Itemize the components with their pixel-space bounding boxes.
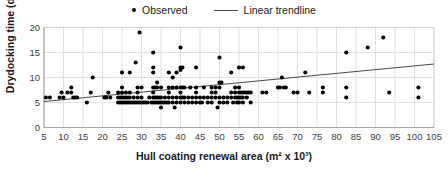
scatter-point (44, 95, 48, 99)
scatter-point (159, 95, 163, 99)
scatter-point (151, 90, 155, 94)
scatter-point (69, 90, 73, 94)
chart-figure: Observed Linear trendline Drydocking tim… (0, 0, 448, 171)
scatter-point (85, 100, 89, 104)
y-tick-label: 20 (29, 22, 40, 33)
scatter-point (221, 100, 225, 104)
scatter-point (178, 100, 182, 104)
scatter-point (194, 95, 198, 99)
scatter-point (182, 85, 186, 89)
scatter-point (229, 90, 233, 94)
scatter-point (303, 70, 307, 74)
scatter-point (321, 85, 325, 89)
scatter-point (216, 105, 220, 109)
scatter-point (381, 35, 385, 39)
x-tick-label: 60 (253, 131, 264, 142)
scatter-point (284, 85, 288, 89)
y-tick-label: 10 (29, 72, 40, 83)
scatter-point (206, 95, 210, 99)
scatter-point (292, 90, 296, 94)
scatter-point (155, 85, 159, 89)
x-tick-label: 100 (407, 131, 423, 142)
scatter-point (120, 90, 124, 94)
scatter-point (217, 55, 221, 59)
scatter-point (75, 95, 79, 99)
scatter-point (147, 95, 151, 99)
scatter-point (167, 100, 171, 104)
x-tick-label: 40 (175, 131, 186, 142)
scatter-point (106, 90, 110, 94)
y-tick-label: 5 (35, 97, 40, 108)
scatter-point (264, 90, 268, 94)
scatter-point (91, 75, 95, 79)
scatter-point (237, 85, 241, 89)
scatter-point (231, 100, 235, 104)
scatter-point (225, 95, 229, 99)
scatter-point (139, 95, 143, 99)
scatter-point (344, 95, 348, 99)
scatter-point (206, 100, 210, 104)
x-tick-label: 75 (312, 131, 323, 142)
scatter-point (120, 85, 124, 89)
scatter-point (171, 100, 175, 104)
x-tick-label: 45 (195, 131, 206, 142)
scatter-point (171, 95, 175, 99)
scatter-point (210, 90, 214, 94)
scatter-point (173, 105, 177, 109)
x-tick-label: 20 (97, 131, 108, 142)
scatter-point (175, 70, 179, 74)
scatter-point (217, 85, 221, 89)
scatter-point (217, 95, 221, 99)
scatter-point (178, 90, 182, 94)
x-axis-label: Hull coating renewal area (m² x 10³) (0, 150, 448, 162)
x-tick-label: 80 (331, 131, 342, 142)
scatter-point (138, 30, 142, 34)
scatter-point (210, 95, 214, 99)
scatter-point (186, 95, 190, 99)
scatter-point (249, 90, 253, 94)
scatter-point (241, 100, 245, 104)
scatter-point (278, 85, 282, 89)
scatter-point (295, 90, 299, 94)
scatter-point (178, 45, 182, 49)
scatter-point (194, 65, 198, 69)
scatter-point (186, 100, 190, 104)
x-tick-label: 50 (214, 131, 225, 142)
x-tick-label: 105 (426, 131, 442, 142)
scatter-point (60, 90, 64, 94)
x-tick-label: 35 (156, 131, 167, 142)
scatter-point (210, 85, 214, 89)
scatter-point (194, 100, 198, 104)
scatter-point (229, 70, 233, 74)
scatter-point (202, 85, 206, 89)
y-tick-label: 0 (35, 122, 40, 133)
scatter-point (151, 65, 155, 69)
scatter-point (280, 75, 284, 79)
scatter-point (104, 95, 108, 99)
scatter-point (198, 95, 202, 99)
scatter-point (108, 95, 112, 99)
scatter-point (214, 95, 218, 99)
scatter-point (188, 85, 192, 89)
scatter-point (175, 100, 179, 104)
scatter-point (241, 65, 245, 69)
scatter-point (180, 65, 184, 69)
scatter-point (229, 95, 233, 99)
scatter-point (167, 85, 171, 89)
x-tick-label: 5 (41, 131, 46, 142)
scatter-point (245, 95, 249, 99)
scatter-point (321, 90, 325, 94)
scatter-point (219, 80, 223, 84)
scatter-point (233, 90, 237, 94)
scatter-point (159, 105, 163, 109)
scatter-point (194, 85, 198, 89)
scatter-point (344, 50, 348, 54)
scatter-point (136, 90, 140, 94)
scatter-point (61, 95, 65, 99)
x-tick-label: 95 (390, 131, 401, 142)
scatter-point (249, 100, 253, 104)
scatter-point (167, 70, 171, 74)
scatter-point (175, 95, 179, 99)
scatter-point (89, 90, 93, 94)
x-tick-label: 25 (117, 131, 128, 142)
